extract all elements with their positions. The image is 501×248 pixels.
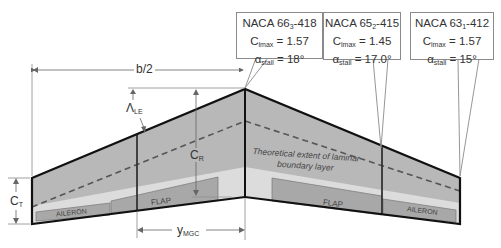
alpha-stall-value: αstall = 15° [411, 52, 493, 70]
airfoil-callout-tip: NACA 631-412 Clmax = 1.57 αstall = 15° [410, 12, 494, 60]
alpha-stall-value: αstall = 18° [237, 52, 322, 70]
clmax-value: Clmax = 1.57 [237, 34, 322, 52]
clmax-value: Clmax = 1.57 [411, 34, 493, 52]
airfoil-callout-mid: NACA 652-415 Clmax = 1.45 αstall = 17.0° [323, 12, 401, 60]
mgc-location-label: yMGC [177, 223, 199, 237]
root-chord-label: CR [190, 148, 204, 162]
sweep-angle-label: ΛLE [126, 101, 143, 115]
callout-pointer-3 [458, 59, 479, 176]
clmax-value: Clmax = 1.45 [324, 34, 400, 52]
alpha-stall-value: αstall = 17.0° [324, 52, 400, 70]
airfoil-name: NACA 663-418 [237, 16, 322, 34]
airfoil-callout-root: NACA 663-418 Clmax = 1.57 αstall = 18° [236, 12, 323, 59]
airfoil-name: NACA 631-412 [411, 16, 493, 34]
tip-chord-label: CT [10, 194, 23, 208]
callout-pointer-2 [373, 59, 388, 148]
half-span-label: b/2 [136, 62, 153, 76]
airfoil-name: NACA 652-415 [324, 16, 400, 34]
